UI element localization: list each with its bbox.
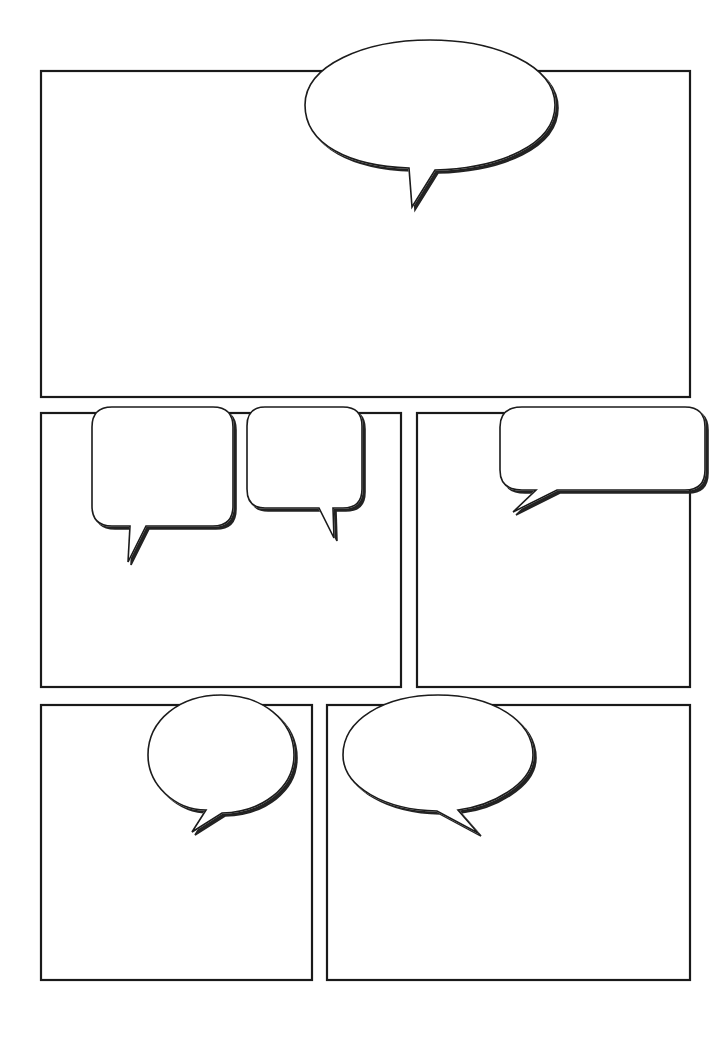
comic-page — [0, 0, 716, 1041]
comic-layout — [0, 0, 716, 1041]
